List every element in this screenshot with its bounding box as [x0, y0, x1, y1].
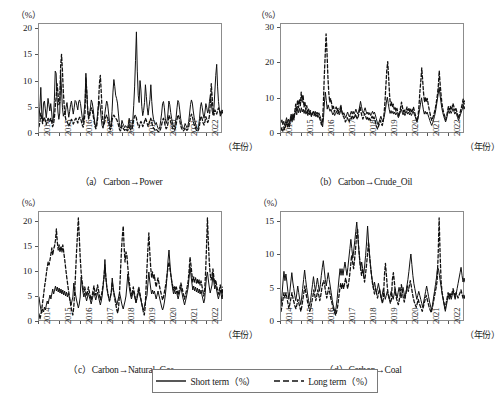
caption-b: （b）Carbon→Crude_Oil [242, 174, 484, 188]
x-tick-label: 2018 [368, 120, 378, 136]
y-tick-mark [35, 107, 38, 108]
x-tick-mark [59, 321, 60, 324]
x-tick-label: 2018 [126, 120, 136, 136]
x-tick-mark [448, 133, 449, 136]
plot-lines-c [39, 212, 223, 322]
legend-entry-long-term: Long term（%） [274, 374, 373, 388]
chart-panel-b: （%） 0102030 2014201520162017201820192020… [242, 8, 484, 194]
x-tick-label: 2016 [326, 120, 336, 136]
x-tick-label: 2021 [189, 120, 199, 136]
y-tick-label: 0 [0, 316, 32, 326]
y-unit-label-d: （%） [258, 196, 283, 209]
x-tick-label: 2018 [368, 308, 378, 324]
legend-label-long-term: Long term（%） [308, 374, 373, 388]
y-tick-mark [277, 221, 280, 222]
x-tick-mark [80, 133, 81, 136]
y-tick-mark [277, 98, 280, 99]
plot-area-a [38, 23, 222, 133]
plot-area-c [38, 211, 222, 321]
y-tick-label: 20 [0, 216, 32, 226]
y-tick-mark [277, 254, 280, 255]
y-tick-label: 5 [0, 102, 32, 112]
y-tick-label: 20 [242, 57, 274, 67]
x-tick-label: 2021 [431, 308, 441, 324]
y-tick-label: 15 [0, 49, 32, 59]
y-tick-mark [277, 27, 280, 28]
x-tick-label: 2016 [84, 120, 94, 136]
x-tick-mark [185, 133, 186, 136]
y-tick-label: 0 [242, 316, 274, 326]
y-tick-mark [277, 288, 280, 289]
x-tick-label: 2020 [168, 120, 178, 136]
x-unit-label-d: （年份） [465, 328, 499, 341]
x-tick-label: 2020 [410, 120, 420, 136]
plot-lines-a [39, 24, 223, 134]
x-tick-mark [122, 321, 123, 324]
x-tick-mark [38, 321, 39, 324]
x-tick-label: 2017 [347, 120, 357, 136]
x-tick-label: 2014 [42, 120, 52, 136]
x-tick-mark [38, 133, 39, 136]
x-tick-label: 2019 [389, 120, 399, 136]
y-tick-mark [35, 54, 38, 55]
x-tick-mark [143, 133, 144, 136]
x-tick-label: 2018 [126, 308, 136, 324]
y-tick-label: 10 [0, 76, 32, 86]
x-tick-label: 2019 [147, 308, 157, 324]
series-line-long-term [281, 34, 465, 131]
legend-label-short-term: Short term（%） [190, 374, 256, 388]
x-tick-label: 2016 [84, 308, 94, 324]
x-tick-mark [448, 321, 449, 324]
chart-panel-c: （%） 05101520 201420152016201720182019202… [0, 196, 242, 382]
x-tick-label: 2019 [389, 308, 399, 324]
x-tick-mark [301, 133, 302, 136]
y-tick-label: 30 [242, 22, 274, 32]
x-tick-mark [206, 133, 207, 136]
x-tick-label: 2017 [347, 308, 357, 324]
x-tick-mark [143, 321, 144, 324]
y-tick-label: 15 [0, 241, 32, 251]
x-tick-label: 2022 [210, 120, 220, 136]
y-tick-label: 5 [0, 291, 32, 301]
x-tick-mark [59, 133, 60, 136]
solid-line-icon [156, 377, 186, 385]
y-tick-mark [277, 62, 280, 63]
y-tick-label: 10 [0, 266, 32, 276]
x-tick-mark [101, 321, 102, 324]
caption-a: （a）Carbon→Power [0, 174, 242, 188]
x-tick-label: 2020 [168, 308, 178, 324]
x-tick-label: 2021 [431, 120, 441, 136]
x-tick-label: 2015 [305, 308, 315, 324]
x-tick-mark [322, 321, 323, 324]
x-tick-mark [280, 133, 281, 136]
x-tick-mark [185, 321, 186, 324]
x-tick-mark [206, 321, 207, 324]
x-tick-mark [280, 321, 281, 324]
x-tick-mark [164, 133, 165, 136]
x-tick-mark [101, 133, 102, 136]
dashed-line-icon [274, 377, 304, 385]
y-tick-label: 10 [242, 93, 274, 103]
series-line-short-term [39, 32, 223, 129]
x-tick-label: 2022 [452, 308, 462, 324]
y-tick-mark [35, 221, 38, 222]
y-tick-label: 0 [242, 128, 274, 138]
y-unit-label-a: （%） [16, 8, 41, 21]
plot-lines-b [281, 24, 465, 134]
x-tick-mark [122, 133, 123, 136]
legend: Short term（%） Long term（%） [152, 369, 378, 393]
x-tick-label: 2021 [189, 308, 199, 324]
y-tick-mark [35, 81, 38, 82]
x-tick-label: 2022 [210, 308, 220, 324]
x-tick-mark [427, 133, 428, 136]
y-tick-mark [35, 271, 38, 272]
y-tick-mark [35, 246, 38, 247]
chart-panel-a: （%） 05101520 201420152016201720182019202… [0, 8, 242, 194]
x-tick-mark [385, 321, 386, 324]
x-tick-label: 2016 [326, 308, 336, 324]
plot-area-b [280, 23, 464, 133]
x-tick-mark [406, 133, 407, 136]
x-tick-mark [343, 133, 344, 136]
y-tick-label: 20 [0, 23, 32, 33]
